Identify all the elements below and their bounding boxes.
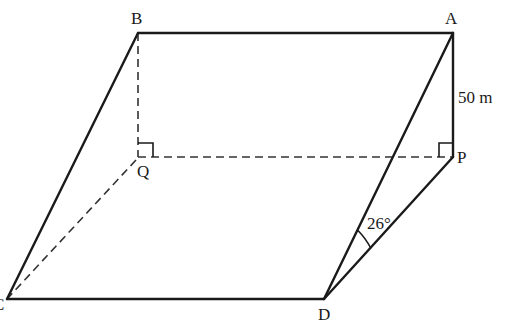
angle-label: 26°	[367, 214, 391, 233]
label-D: D	[318, 305, 330, 324]
edge-DA	[324, 33, 453, 299]
right-angle-marker-Q	[138, 143, 153, 157]
label-B: B	[131, 9, 142, 28]
label-C: C	[0, 295, 4, 314]
right-angle-marker-P	[439, 143, 453, 157]
label-A: A	[445, 9, 458, 28]
edge-BC	[7, 33, 138, 299]
edge-QC	[7, 160, 136, 299]
height-label: 50 m	[458, 88, 492, 107]
label-Q: Q	[137, 162, 149, 181]
inclined-plane-diagram: B A Q P C D 50 m 26°	[0, 0, 511, 331]
label-P: P	[457, 148, 466, 167]
